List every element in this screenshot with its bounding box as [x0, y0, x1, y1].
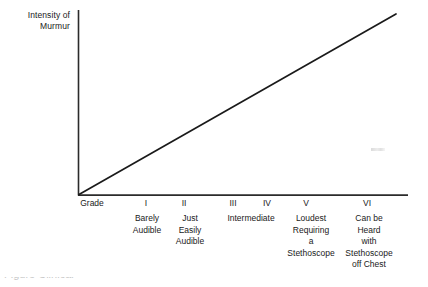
grade-description-6: Can be Heard with Stethoscope off Chest [332, 213, 406, 271]
grade-6-desc-line-2: Heard [332, 225, 406, 237]
grade-6-desc-line-4: Stethoscope [332, 248, 406, 260]
figure-caption-text: Figure Clinical [4, 277, 74, 281]
grade-6-desc-line-5: off Chest [332, 259, 406, 271]
data-line-intensity [79, 14, 396, 195]
grade-numeral-1: I [126, 198, 166, 209]
x-axis-row-label: Grade [70, 198, 114, 209]
grade-6-desc-line-3: with [332, 236, 406, 248]
grade-2-desc-line-3: Audible [153, 236, 227, 248]
grade-numeral-6: VI [347, 198, 387, 209]
grade-6-desc-line-1: Can be [332, 213, 406, 225]
grade-2-desc-line-2: Easily [153, 225, 227, 237]
grade-numeral-2: II [164, 198, 204, 209]
grade-numeral-4: IV [247, 198, 287, 209]
figure-murmur-intensity-grade: Intensity of Murmur Grade I II III IV V … [0, 0, 428, 287]
scan-artifact [371, 148, 385, 151]
grade-numeral-5: V [286, 198, 326, 209]
figure-caption-clipped: Figure Clinical [0, 277, 428, 287]
